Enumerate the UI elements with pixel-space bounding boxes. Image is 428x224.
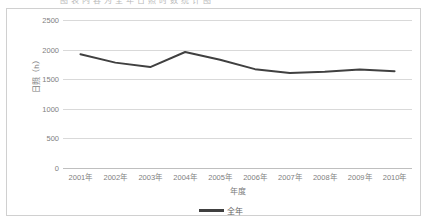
x-axis-tick-labels: 2001年 2002年 2003年 2004年 2005年 2006年 2007… — [63, 171, 412, 185]
x-axis-title: 年度 — [63, 185, 412, 196]
y-tick-label: 1000 — [42, 104, 59, 113]
x-tick-label: 2002年 — [98, 171, 133, 185]
plot-area — [63, 20, 412, 168]
chart-screenshot: 图 表 内 容 为 全 年 日 照 时 数 统 计 图 日照（h） 2500 2… — [0, 0, 428, 224]
y-tick-label: 1500 — [42, 75, 59, 84]
x-tick-label: 2009年 — [342, 171, 377, 185]
y-tick-label: 0 — [55, 164, 59, 173]
clipped-caption: 图 表 内 容 为 全 年 日 照 时 数 统 计 图 — [0, 0, 428, 7]
legend-line-swatch-icon — [199, 209, 224, 212]
legend-label: 全年 — [227, 205, 243, 216]
chart-frame: 日照（h） 2500 2000 1500 1000 500 0 2001年 20… — [6, 8, 421, 216]
x-tick-label: 2005年 — [203, 171, 238, 185]
series-line-全年 — [63, 20, 412, 168]
y-tick-label: 500 — [46, 134, 59, 143]
x-tick-label: 2003年 — [133, 171, 168, 185]
x-tick-label: 2006年 — [238, 171, 273, 185]
x-tick-label: 2001年 — [63, 171, 98, 185]
x-tick-label: 2010年 — [377, 171, 412, 185]
y-tick-label: 2500 — [42, 16, 59, 25]
chart-legend: 全年 — [7, 205, 428, 216]
x-axis-line — [63, 168, 412, 169]
x-tick-label: 2008年 — [307, 171, 342, 185]
clipped-caption-text: 图 表 内 容 为 全 年 日 照 时 数 统 计 图 — [60, 0, 212, 5]
y-tick-label: 2000 — [42, 45, 59, 54]
x-tick-label: 2004年 — [168, 171, 203, 185]
y-axis-tick-labels: 2500 2000 1500 1000 500 0 — [23, 20, 59, 168]
x-tick-label: 2007年 — [272, 171, 307, 185]
